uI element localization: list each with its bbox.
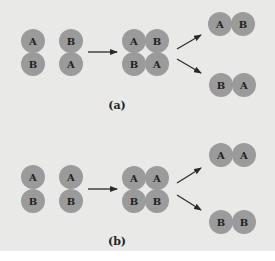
atom-label: A	[28, 172, 37, 183]
atom-label: B	[217, 217, 225, 228]
product-molecule-2: B B	[209, 210, 256, 234]
atom-label: A	[129, 173, 138, 184]
reactant-molecule-1: A B	[21, 29, 45, 76]
intermediate-complex: A A B B	[122, 166, 169, 213]
panel-a: A B B A A B B A	[21, 12, 256, 112]
reactant-molecule-1: A B	[21, 165, 45, 213]
atom-label: B	[67, 36, 75, 47]
product-molecule-1: A A	[209, 143, 256, 167]
atom-label: A	[152, 59, 161, 70]
up-right-arrow-icon	[177, 168, 201, 183]
intermediate-complex: A B B A	[122, 29, 169, 76]
atom-label: A	[129, 36, 138, 47]
atom-label: B	[240, 217, 248, 228]
atom-label: A	[28, 36, 37, 47]
atom-label: B	[29, 59, 37, 70]
panel-label-a: (a)	[108, 99, 126, 112]
down-right-arrow-icon	[177, 195, 201, 210]
atom-label: B	[130, 59, 138, 70]
up-right-arrow-icon	[177, 35, 201, 49]
atom-label: B	[153, 196, 161, 207]
atom-label: A	[239, 80, 248, 91]
atom-label: A	[66, 59, 75, 70]
atom-label: B	[29, 196, 37, 207]
reactant-molecule-2: A B	[59, 165, 83, 213]
atom-label: A	[215, 19, 224, 30]
atom-label: A	[216, 150, 225, 161]
atom-label: B	[153, 36, 161, 47]
down-right-arrow-icon	[177, 59, 201, 73]
atom-label: B	[67, 196, 75, 207]
atom-label: A	[239, 150, 248, 161]
atom-label: A	[66, 172, 75, 183]
product-molecule-1: A B	[208, 12, 255, 36]
atom-label: A	[152, 173, 161, 184]
atom-label: B	[217, 80, 225, 91]
reactant-molecule-2: B A	[59, 29, 83, 76]
panel-b: A B A B A A B B	[21, 143, 256, 248]
product-molecule-2: B A	[209, 73, 256, 97]
reaction-diagram: A B B A A B B A	[0, 0, 275, 261]
atom-label: B	[239, 19, 247, 30]
diagram-canvas: A B B A A B B A	[0, 0, 275, 261]
atom-label: B	[130, 196, 138, 207]
panel-label-b: (b)	[108, 235, 126, 248]
